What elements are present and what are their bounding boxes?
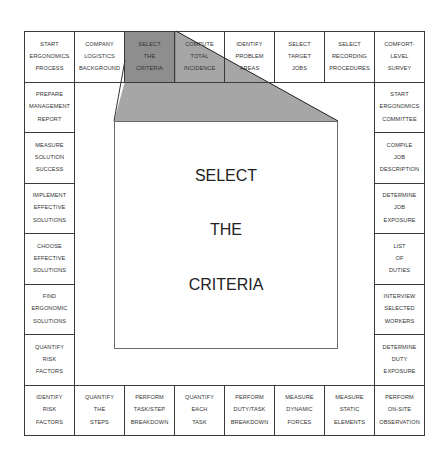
step-label-line: BREAKDOWN bbox=[231, 420, 269, 426]
process-step-cell: PERFORMDUTY/TASKBREAKDOWN bbox=[224, 385, 275, 437]
step-label-line: LOGISTICS bbox=[84, 54, 115, 60]
step-label-line: COMPANY bbox=[85, 42, 114, 48]
step-label-line: FACTORS bbox=[36, 420, 63, 426]
step-label-line: START bbox=[390, 92, 408, 98]
step-label-line: LIST bbox=[393, 244, 405, 250]
step-label-line: EXPOSURE bbox=[384, 369, 416, 375]
step-label-line: SELECT bbox=[338, 42, 360, 48]
ergonomics-process-diagram: STARTERGONOMICSPROCESSCOMPANYLOGISTICSBA… bbox=[0, 0, 445, 456]
step-label-line: TARGET bbox=[288, 54, 311, 60]
step-label-line: THE bbox=[144, 54, 156, 60]
center-line-2: THE bbox=[210, 221, 242, 239]
step-label-line: DYNAMIC bbox=[286, 407, 313, 413]
step-label-line: MEASURE bbox=[35, 143, 63, 149]
process-step-cell: SELECTRECORDINGPROCEDURES bbox=[324, 31, 375, 83]
step-label-line: MEASURE bbox=[335, 395, 363, 401]
step-label-line: SELECT bbox=[288, 42, 310, 48]
step-label-line: EFFECTIVE bbox=[34, 205, 66, 211]
step-label-line: MANAGEMENT bbox=[29, 104, 70, 110]
step-label-line: TOTAL bbox=[190, 54, 208, 60]
step-label-line: INCIDENCE bbox=[184, 66, 216, 72]
step-label-line: JOB bbox=[394, 155, 405, 161]
step-label-line: PERFORM bbox=[385, 395, 414, 401]
step-label-line: RISK bbox=[43, 407, 56, 413]
process-step-cell: MEASUREDYNAMICFORCES bbox=[274, 385, 325, 437]
process-step-cell: SELECTTARGETJOBS bbox=[274, 31, 325, 83]
step-label-line: ERGONOMICS bbox=[30, 54, 70, 60]
step-label-line: ERGONOMICS bbox=[380, 104, 420, 110]
step-label-line: PROBLEM bbox=[235, 54, 263, 60]
process-step-cell: STARTERGONOMICSCOMMITTEE bbox=[374, 82, 425, 134]
step-label-line: STEPS bbox=[90, 420, 109, 426]
step-label-line: BACKGROUND bbox=[79, 66, 120, 72]
process-step-cell: QUANTIFYEACHTASK bbox=[174, 385, 225, 437]
step-label-line: EACH bbox=[192, 407, 208, 413]
step-label-line: PERFORM bbox=[135, 395, 164, 401]
step-label-line: TASK/STEP bbox=[134, 407, 165, 413]
process-step-cell: COMFORT-LEVELSURVEY bbox=[374, 31, 425, 83]
step-label-line: FORCES bbox=[288, 420, 312, 426]
process-step-cell: DETERMINEDUTYEXPOSURE bbox=[374, 334, 425, 386]
process-step-cell: QUANTIFYTHESTEPS bbox=[74, 385, 125, 437]
process-step-cell: IDENTIFYPROBLEMAREAS bbox=[224, 31, 275, 83]
process-step-cell: CHOOSEEFFECTIVESOLUTIONS bbox=[24, 233, 75, 285]
process-step-cell: MEASURESTATICELEMENTS bbox=[324, 385, 375, 437]
step-label-line: SOLUTIONS bbox=[33, 319, 66, 325]
step-label-line: JOB bbox=[394, 205, 405, 211]
step-label-line: IDENTIFY bbox=[236, 42, 262, 48]
process-step-cell: PERFORMTASK/STEPBREAKDOWN bbox=[124, 385, 175, 437]
process-step-cell: SELECTTHECRITERIA bbox=[124, 31, 175, 83]
step-label-line: RISK bbox=[43, 357, 56, 363]
step-label-line: QUANTIFY bbox=[85, 395, 114, 401]
step-label-line: COMPILE bbox=[387, 143, 413, 149]
step-label-line: OF bbox=[396, 256, 404, 262]
step-label-line: QUANTIFY bbox=[35, 345, 64, 351]
step-label-line: WORKERS bbox=[385, 319, 415, 325]
process-step-cell: COMPILEJOBDESCRIPTION bbox=[374, 132, 425, 184]
step-label-line: FACTORS bbox=[36, 369, 63, 375]
step-label-line: INTERVIEW bbox=[384, 294, 416, 300]
step-label-line: DUTIES bbox=[389, 268, 410, 274]
step-label-line: IDENTIFY bbox=[36, 395, 62, 401]
step-label-line: SOLUTIONS bbox=[33, 268, 66, 274]
step-label-line: PERFORM bbox=[235, 395, 264, 401]
process-step-cell: DETERMINEJOBEXPOSURE bbox=[374, 183, 425, 235]
step-label-line: AREAS bbox=[240, 66, 259, 72]
step-label-line: SOLUTIONS bbox=[33, 218, 66, 224]
step-label-line: PROCEDURES bbox=[329, 66, 369, 72]
step-label-line: COMFORT- bbox=[384, 42, 415, 48]
step-label-line: TASK bbox=[192, 420, 207, 426]
process-step-cell: MEASURESOLUTIONSUCCESS bbox=[24, 132, 75, 184]
step-label-line: SURVEY bbox=[388, 66, 412, 72]
step-label-line: CHOOSE bbox=[37, 244, 62, 250]
step-label-line: DETERMINE bbox=[383, 345, 417, 351]
process-step-cell: COMPANYLOGISTICSBACKGROUND bbox=[74, 31, 125, 83]
step-label-line: EFFECTIVE bbox=[34, 256, 66, 262]
process-step-cell: INTERVIEWSELECTEDWORKERS bbox=[374, 284, 425, 336]
step-label-line: DETERMINE bbox=[383, 193, 417, 199]
step-label-line: COMMITTEE bbox=[382, 117, 416, 123]
process-step-cell: LISTOFDUTIES bbox=[374, 233, 425, 285]
step-label-line: DUTY bbox=[392, 357, 408, 363]
process-step-cell: QUANTIFYRISKFACTORS bbox=[24, 334, 75, 386]
step-label-line: PROCESS bbox=[35, 66, 63, 72]
step-label-line: SUCCESS bbox=[36, 167, 64, 173]
step-label-line: MEASURE bbox=[285, 395, 313, 401]
step-label-line: IMPLEMENT bbox=[33, 193, 67, 199]
process-step-cell: STARTERGONOMICSPROCESS bbox=[24, 31, 75, 83]
step-label-line: PREPARE bbox=[36, 92, 63, 98]
process-step-cell: IMPLEMENTEFFECTIVESOLUTIONS bbox=[24, 183, 75, 235]
step-label-line: START bbox=[40, 42, 58, 48]
step-label-line: QUANTIFY bbox=[185, 395, 214, 401]
step-label-line: JOBS bbox=[292, 66, 307, 72]
step-label-line: BREAKDOWN bbox=[131, 420, 169, 426]
step-label-line: DUTY/TASK bbox=[234, 407, 266, 413]
step-label-line: ELEMENTS bbox=[334, 420, 365, 426]
step-label-line: DESCRIPTION bbox=[380, 167, 419, 173]
center-line-1: SELECT bbox=[195, 167, 257, 185]
step-label-line: STATIC bbox=[340, 407, 360, 413]
process-step-cell: PREPAREMANAGEMENTREPORT bbox=[24, 82, 75, 134]
step-label-line: SELECTED bbox=[384, 306, 414, 312]
process-step-cell: PERFORMON-SITEOBSERVATION bbox=[374, 385, 425, 437]
step-label-line: ON-SITE bbox=[388, 407, 411, 413]
